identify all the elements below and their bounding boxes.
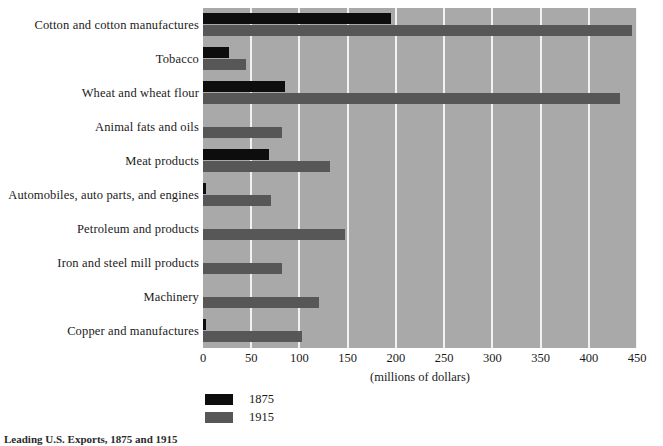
- bar-1875: [203, 149, 269, 160]
- x-tick-label-200: 200: [387, 350, 406, 366]
- legend-item-1875[interactable]: 1875: [205, 391, 274, 407]
- figure-caption: Leading U.S. Exports, 1875 and 1915: [4, 433, 178, 446]
- bar-group: [203, 178, 637, 212]
- x-tick-label-250: 250: [435, 350, 454, 366]
- bar-1915: [203, 93, 620, 104]
- bar-group: [203, 212, 637, 246]
- x-axis-title: (millions of dollars): [203, 369, 637, 385]
- legend-label: 1875: [249, 392, 274, 406]
- bar-1875: [203, 183, 206, 194]
- bar-group: [203, 280, 637, 314]
- category-label: Automobiles, auto parts, and engines: [0, 188, 199, 202]
- plot-area: [203, 8, 637, 348]
- bar-1875: [203, 47, 229, 58]
- bar-1915: [203, 331, 302, 342]
- legend-label: 1915: [249, 410, 274, 424]
- bar-1915: [203, 195, 271, 206]
- legend: 18751915: [205, 391, 274, 427]
- x-axis-tick-labels: 050100150200250300350400450: [203, 350, 637, 368]
- category-label: Copper and manufactures: [0, 324, 199, 338]
- x-tick-label-150: 150: [338, 350, 357, 366]
- x-tick-label-350: 350: [531, 350, 550, 366]
- bar-1915: [203, 59, 246, 70]
- x-tick-label-0: 0: [200, 350, 206, 366]
- x-tick-label-50: 50: [245, 350, 258, 366]
- x-tick-label-450: 450: [628, 350, 647, 366]
- category-label: Iron and steel mill products: [0, 256, 199, 270]
- bar-1915: [203, 127, 282, 138]
- bar-1915: [203, 229, 345, 240]
- x-tick-label-400: 400: [579, 350, 598, 366]
- bar-group: [203, 246, 637, 280]
- bar-1875: [203, 319, 206, 330]
- x-tick-label-100: 100: [290, 350, 309, 366]
- category-label: Petroleum and products: [0, 222, 199, 236]
- bar-1915: [203, 161, 330, 172]
- category-label: Meat products: [0, 154, 199, 168]
- legend-swatch-1915: [205, 412, 233, 423]
- bar-1875: [203, 13, 391, 24]
- bar-group: [203, 110, 637, 144]
- x-tick-label-300: 300: [483, 350, 502, 366]
- category-label: Cotton and cotton manufactures: [0, 18, 199, 32]
- category-label: Animal fats and oils: [0, 120, 199, 134]
- bar-group: [203, 8, 637, 42]
- bar-group: [203, 76, 637, 110]
- bar-group: [203, 314, 637, 348]
- category-label: Machinery: [0, 290, 199, 304]
- bar-1875: [203, 81, 285, 92]
- category-axis-labels: Cotton and cotton manufacturesTobaccoWhe…: [0, 8, 199, 348]
- legend-item-1915[interactable]: 1915: [205, 409, 274, 425]
- bar-group: [203, 144, 637, 178]
- category-label: Tobacco: [0, 52, 199, 66]
- bar-group: [203, 42, 637, 76]
- bar-1915: [203, 263, 282, 274]
- bar-1915: [203, 297, 319, 308]
- bar-1915: [203, 25, 632, 36]
- legend-swatch-1875: [205, 394, 233, 405]
- category-label: Wheat and wheat flour: [0, 86, 199, 100]
